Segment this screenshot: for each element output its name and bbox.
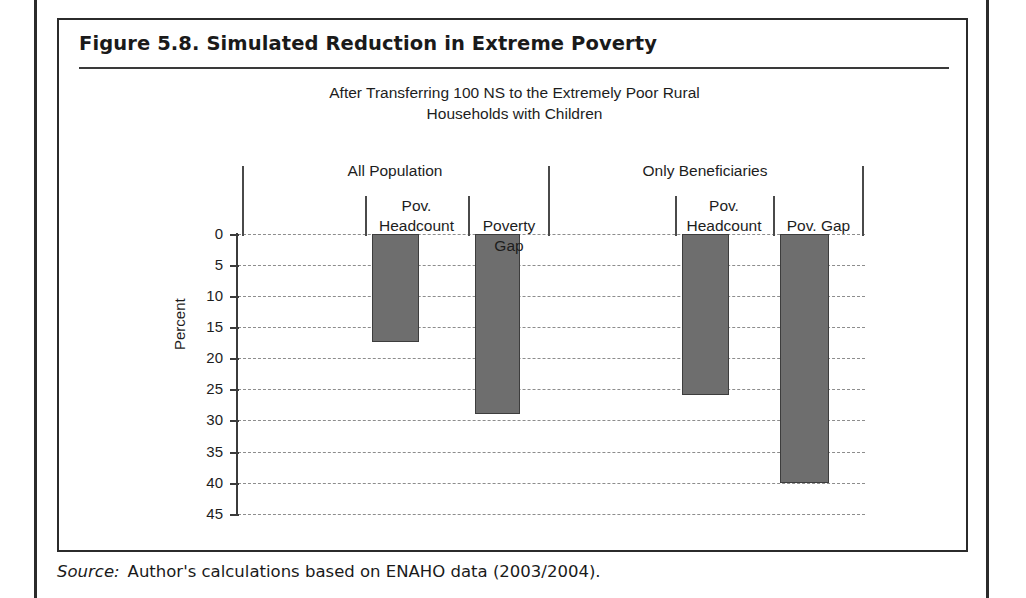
series-label-1-line-2: Headcount	[365, 216, 468, 236]
series-label-4: Pov. Gap	[775, 216, 862, 236]
y-tick-35	[230, 452, 239, 454]
gridline-30	[238, 420, 865, 421]
group-label-only-beneficiaries: Only Beneficiaries	[548, 162, 862, 180]
separator-right-outer	[862, 166, 864, 236]
gridline-5	[238, 265, 865, 266]
y-tick-40	[230, 483, 239, 485]
series-label-2-line-2: Poverty Gap	[470, 216, 548, 256]
gridline-40	[238, 483, 865, 484]
y-tick-label-20: 20	[183, 349, 223, 366]
series-label-3-line-1: Pov.	[675, 196, 773, 216]
bar-all-population-poverty-gap	[475, 234, 520, 414]
gridline-45	[238, 514, 865, 515]
gridline-15	[238, 327, 865, 328]
y-tick-0	[230, 234, 239, 236]
group-label-all-population: All Population	[242, 162, 548, 180]
y-axis-line	[236, 233, 238, 515]
source-text: Author's calculations based on ENAHO dat…	[128, 562, 601, 581]
series-label-2: Poverty Gap	[470, 216, 548, 256]
gridline-10	[238, 296, 865, 297]
y-tick-label-15: 15	[183, 318, 223, 335]
page-right-rule	[986, 0, 989, 598]
y-tick-20	[230, 358, 239, 360]
y-tick-label-0: 0	[183, 225, 223, 242]
y-tick-label-10: 10	[183, 287, 223, 304]
y-tick-25	[230, 389, 239, 391]
series-label-1-line-1: Pov.	[365, 196, 468, 216]
gridline-20	[238, 358, 865, 359]
y-tick-label-5: 5	[183, 256, 223, 273]
page-left-rule	[34, 0, 37, 598]
source-label: Source:	[57, 562, 120, 581]
y-tick-label-45: 45	[183, 505, 223, 522]
y-tick-5	[230, 265, 239, 267]
bar-only-beneficiaries-pov-gap	[780, 234, 829, 483]
series-label-1: Pov. Headcount	[365, 196, 468, 236]
series-label-3: Pov. Headcount	[675, 196, 773, 236]
series-label-4-line-2: Pov. Gap	[775, 216, 862, 236]
gridline-25	[238, 389, 865, 390]
gridline-35	[238, 452, 865, 453]
chart-plot-area: Percent 0 5 10 15 20 25 30 35 40 45	[59, 20, 970, 554]
y-tick-45	[230, 514, 239, 516]
y-tick-label-40: 40	[183, 474, 223, 491]
series-label-3-line-2: Headcount	[675, 216, 773, 236]
figure-box: Figure 5.8. Simulated Reduction in Extre…	[57, 18, 968, 552]
source-note: Source:Author's calculations based on EN…	[57, 562, 977, 581]
y-tick-label-30: 30	[183, 411, 223, 428]
y-tick-label-25: 25	[183, 380, 223, 397]
bar-all-population-pov-headcount	[372, 234, 419, 342]
y-tick-10	[230, 296, 239, 298]
y-tick-label-35: 35	[183, 443, 223, 460]
y-tick-30	[230, 420, 239, 422]
bar-only-beneficiaries-pov-headcount	[682, 234, 729, 395]
y-tick-15	[230, 327, 239, 329]
